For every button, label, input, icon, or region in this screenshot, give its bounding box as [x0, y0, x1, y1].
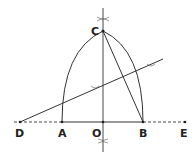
- label-A: A: [58, 127, 67, 140]
- label-E: E: [180, 127, 188, 140]
- arc-AC: [62, 31, 103, 122]
- construction-marks: [91, 17, 155, 143]
- label-C: C: [91, 25, 99, 38]
- label-B: B: [139, 127, 147, 140]
- label-D: D: [15, 127, 24, 140]
- line-D: [20, 59, 163, 122]
- label-O: O: [92, 127, 101, 140]
- points: [19, 30, 187, 124]
- construction-diagram: D A O B E C: [0, 0, 196, 162]
